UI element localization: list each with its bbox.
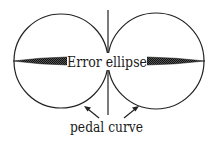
left-arrow-icon — [84, 106, 99, 118]
error-ellipse-right-half — [147, 57, 205, 65]
error-ellipse-label: Error ellipse — [67, 54, 147, 70]
pedal-curve-label: pedal curve — [70, 119, 143, 135]
right-arrow-icon — [124, 106, 139, 118]
pedal-curve-diagram: Error ellipse pedal curve — [0, 0, 216, 145]
error-ellipse-left-half — [13, 57, 67, 65]
